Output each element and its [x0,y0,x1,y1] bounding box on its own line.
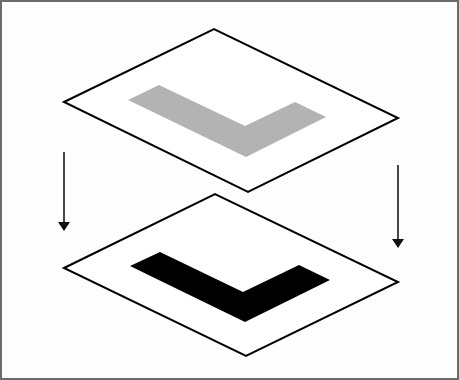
bottom-plane [64,194,398,356]
top-plane [64,29,398,192]
layer-diagram [2,2,459,380]
arrowhead-right-icon [392,239,404,248]
figure-frame [0,0,459,380]
arrowhead-left-icon [58,222,70,231]
